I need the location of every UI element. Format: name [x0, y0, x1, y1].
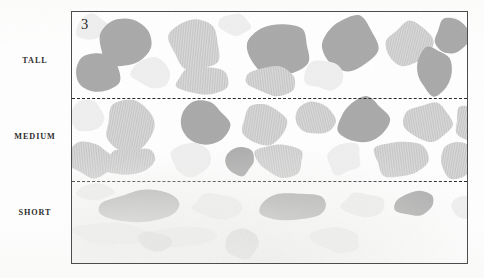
vegetation-blob: [302, 56, 348, 95]
vegetation-blob: [166, 139, 215, 183]
blob-shape-pale: [166, 139, 215, 183]
vegetation-blob: [257, 189, 331, 225]
blob-shape-striped: [135, 229, 175, 254]
blob-shape-pale: [189, 191, 245, 222]
blob-shape-pale: [339, 189, 390, 222]
vegetation-blob: [250, 139, 307, 180]
blob-shape-pale: [322, 137, 367, 178]
blob-shape-striped: [220, 227, 263, 263]
row-label-tall: TALL: [0, 57, 70, 65]
blob-shape-solid: [408, 41, 460, 99]
vegetation-blob: [171, 62, 235, 97]
vegetation-blob: [95, 186, 181, 226]
vegetation-blob: [322, 137, 367, 178]
figure-container: TALL MEDIUM SHORT 3: [0, 0, 484, 278]
vegetation-blob: [339, 189, 390, 222]
row-label-short: SHORT: [0, 209, 70, 217]
vegetation-blob: [243, 64, 303, 99]
blob-shape-pale: [307, 226, 364, 255]
vegetation-blob: [436, 140, 468, 183]
vegetation-blob: [220, 227, 263, 263]
blob-shape-pale: [447, 194, 468, 220]
blob-shape-striped: [100, 143, 157, 180]
vegetation-blob: [189, 191, 245, 222]
band-divider-medium-short: [72, 181, 467, 182]
blob-layer: [72, 12, 467, 263]
vegetation-blob: [128, 51, 175, 92]
vegetation-blob: [447, 194, 468, 220]
blob-shape-striped: [243, 64, 303, 99]
vegetation-blob: [307, 226, 364, 255]
blob-shape-striped: [436, 140, 468, 183]
blob-shape-solid: [393, 189, 439, 219]
band-divider-tall-medium: [72, 98, 467, 99]
blob-shape-striped: [171, 62, 235, 97]
row-label-medium: MEDIUM: [0, 133, 70, 141]
blob-shape-striped: [370, 134, 430, 183]
blob-shape-pale: [302, 56, 348, 95]
vegetation-blob: [135, 229, 175, 254]
plot-box: 3: [71, 11, 468, 264]
blob-shape-pale: [128, 51, 175, 92]
blob-shape-solid: [257, 189, 331, 225]
vegetation-blob: [393, 189, 439, 219]
blob-shape-solid: [95, 186, 181, 226]
vegetation-blob: [408, 41, 460, 99]
blob-shape-striped: [250, 139, 307, 180]
vegetation-blob: [100, 143, 157, 180]
vegetation-blob: [370, 134, 430, 183]
figure-number: 3: [81, 17, 88, 32]
